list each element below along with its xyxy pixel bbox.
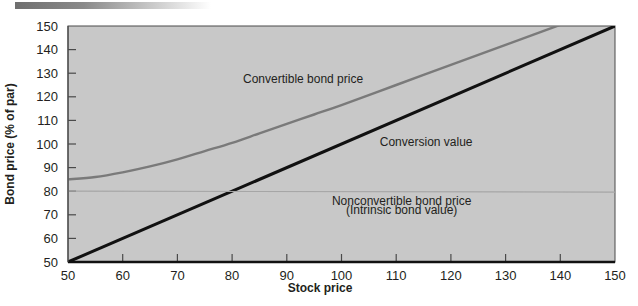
x-tick-label: 70	[170, 268, 184, 283]
chart-svg: 5060708090100110120130140150 50607080901…	[0, 0, 638, 306]
series-annotation: Conversion value	[380, 135, 473, 149]
x-tick-label: 110	[386, 268, 407, 283]
y-tick-label: 60	[44, 231, 58, 246]
series-annotation: (Intrinsic bond value)	[346, 203, 457, 217]
x-tick-label: 50	[61, 268, 75, 283]
y-tick-label: 130	[36, 66, 58, 81]
x-tick-label: 80	[225, 268, 239, 283]
y-tick-label: 50	[44, 255, 58, 270]
y-tick-label: 100	[36, 137, 58, 152]
series-annotation: Convertible bond price	[243, 72, 363, 86]
x-tick-label: 130	[495, 268, 517, 283]
x-tick-label: 120	[440, 268, 462, 283]
chart-figure: 5060708090100110120130140150 50607080901…	[0, 0, 638, 306]
x-axis-title: Stock price	[288, 281, 353, 295]
y-tick-label: 110	[37, 113, 58, 128]
x-tick-label: 60	[115, 268, 129, 283]
y-tick-label: 70	[44, 207, 58, 222]
y-tick-label: 120	[36, 89, 58, 104]
y-axis-title: Bond price (% of par)	[3, 83, 17, 204]
y-tick-label: 150	[36, 19, 58, 34]
x-tick-label: 150	[604, 268, 626, 283]
y-tick-label: 90	[44, 160, 58, 175]
y-tick-label: 140	[36, 42, 58, 57]
x-tick-label: 140	[549, 268, 571, 283]
y-tick-label: 80	[44, 184, 58, 199]
